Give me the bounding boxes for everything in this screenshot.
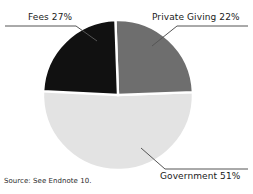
pie-label-government: Government 51% bbox=[160, 171, 240, 182]
pie-chart-figure: Fees 27% Private Giving 22% Government 5… bbox=[0, 0, 253, 194]
source-note: Source: See Endnote 10. bbox=[4, 177, 92, 185]
pie-slice-fees[interactable] bbox=[43, 20, 118, 95]
pie-chart-graphic bbox=[0, 0, 253, 194]
pie-label-private-giving: Private Giving 22% bbox=[152, 12, 240, 23]
pie-label-fees: Fees 27% bbox=[28, 12, 72, 23]
pie-slice-private-giving[interactable] bbox=[115, 20, 192, 95]
